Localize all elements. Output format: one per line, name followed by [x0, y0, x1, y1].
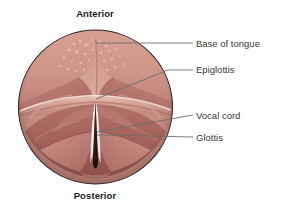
callout-label-vocal-cord: Vocal cord: [196, 110, 240, 122]
anatomy-figure: Anterior Posterior Base of tongue Epiglo…: [0, 0, 284, 208]
callout-label-glottis: Glottis: [196, 132, 223, 144]
larynx-illustration: [0, 0, 284, 208]
callout-label-epiglottis: Epiglottis: [196, 64, 235, 76]
orientation-label-posterior: Posterior: [0, 190, 190, 201]
laryngoscope-view: [16, 28, 176, 188]
orientation-label-anterior: Anterior: [0, 8, 190, 19]
callout-label-base-of-tongue: Base of tongue: [196, 38, 260, 50]
